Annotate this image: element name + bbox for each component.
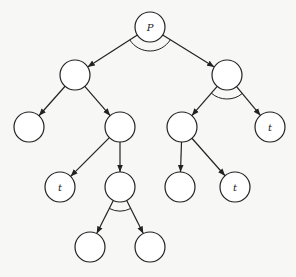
tree-node	[105, 112, 135, 142]
tree-node	[135, 232, 165, 262]
node-circle	[105, 112, 135, 142]
tree-node-t: t	[255, 112, 285, 142]
and-arc	[109, 208, 130, 211]
edge-arrow	[127, 200, 144, 233]
node-circle	[75, 232, 105, 262]
edge-arrow	[71, 138, 110, 177]
node-circle	[135, 232, 165, 262]
edge-arrow	[192, 86, 217, 115]
node-circle	[105, 172, 135, 202]
node-circle	[167, 112, 197, 142]
and-arc	[211, 93, 242, 99]
tree-node	[75, 232, 105, 262]
tree-node	[105, 172, 135, 202]
tree-node-t: t	[220, 172, 250, 202]
node-circle	[165, 172, 195, 202]
edge-arrow	[88, 35, 138, 67]
node-label: P	[146, 22, 154, 33]
nodes-layer: Pttt	[14, 12, 285, 262]
tree-node	[167, 112, 197, 142]
tree-node-p: P	[135, 12, 165, 42]
tree-node-t: t	[45, 172, 75, 202]
edge-arrow	[85, 86, 110, 115]
tree-node	[60, 60, 90, 90]
edge-arrow	[39, 86, 65, 116]
edge-arrow	[97, 200, 114, 233]
edge-arrow	[237, 87, 261, 116]
tree-node	[212, 60, 242, 90]
edge-arrow	[180, 142, 181, 172]
node-circle	[212, 60, 242, 90]
tree-node	[165, 172, 195, 202]
node-circle	[14, 112, 44, 142]
and-or-tree-diagram: Pttt	[0, 0, 296, 277]
edge-arrow	[192, 138, 225, 176]
node-circle	[60, 60, 90, 90]
tree-node	[14, 112, 44, 142]
